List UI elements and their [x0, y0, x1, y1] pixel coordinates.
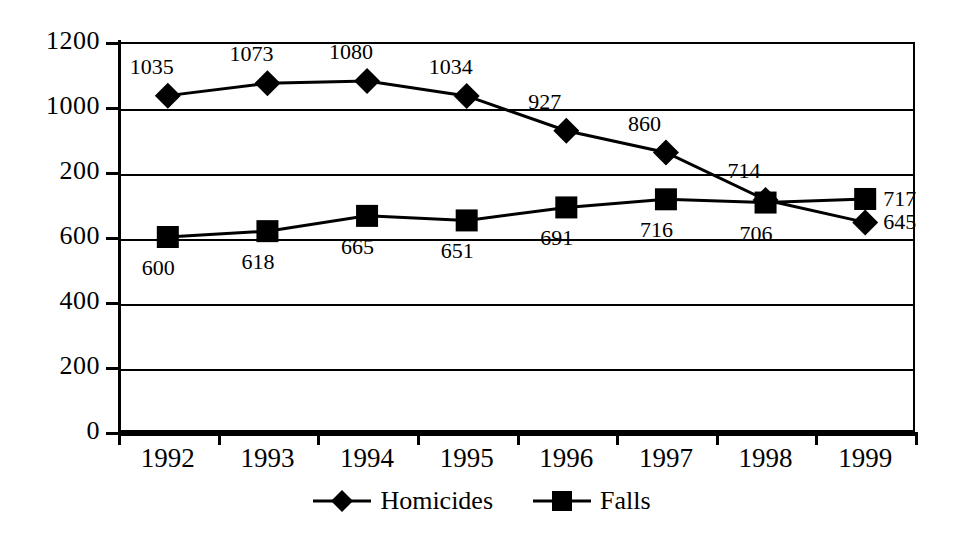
- x-axis-label: 1999: [815, 443, 915, 473]
- x-axis-label: 1998: [716, 443, 816, 473]
- y-axis-label-wrap: 1000: [0, 93, 100, 119]
- legend-label-homicides: Homicides: [380, 487, 493, 515]
- data-point-label: 1035: [130, 56, 174, 78]
- y-axis-label-wrap: 0: [0, 418, 100, 444]
- square-marker-icon: [533, 488, 591, 514]
- legend-label-falls: Falls: [600, 487, 651, 515]
- data-point-label: 651: [441, 240, 474, 262]
- data-point-label: 714: [728, 160, 761, 182]
- data-point-marker: [755, 192, 777, 214]
- data-point-marker: [653, 140, 679, 166]
- data-point-marker: [456, 209, 478, 231]
- y-axis-label: 200: [60, 353, 101, 379]
- y-axis-label: 600: [60, 223, 101, 249]
- y-axis-label: 1200: [46, 28, 100, 54]
- data-point-marker: [555, 196, 577, 218]
- legend-item-falls[interactable]: Falls: [533, 487, 651, 515]
- data-point-label: 691: [540, 227, 573, 249]
- data-point-label: 665: [341, 236, 374, 258]
- data-point-marker: [256, 220, 278, 242]
- y-axis-label-wrap: 200: [0, 353, 100, 379]
- data-point-label: 645: [883, 211, 916, 233]
- data-point-label: 927: [528, 91, 561, 113]
- data-point-marker: [354, 68, 380, 94]
- data-point-marker: [155, 83, 181, 109]
- x-axis-label: 1992: [118, 443, 218, 473]
- y-axis-label-wrap: 400: [0, 288, 100, 314]
- x-axis-label: 1997: [616, 443, 716, 473]
- data-point-label: 716: [640, 219, 673, 241]
- data-point-label: 1080: [329, 41, 373, 63]
- data-point-marker: [157, 226, 179, 248]
- data-point-marker: [854, 188, 876, 210]
- x-axis-tick: [915, 432, 918, 445]
- x-axis-label: 1996: [517, 443, 617, 473]
- y-axis-label: 200: [60, 158, 101, 184]
- legend-item-homicides[interactable]: Homicides: [313, 487, 493, 515]
- data-point-marker: [454, 83, 480, 109]
- line-chart: 020040060020010001200 199219931994199519…: [0, 0, 964, 538]
- x-axis-label: 1994: [317, 443, 417, 473]
- data-point-marker: [553, 118, 579, 144]
- data-point-marker: [852, 209, 878, 235]
- data-point-label: 860: [628, 113, 661, 135]
- chart-legend: Homicides Falls: [0, 487, 964, 515]
- y-axis-label: 400: [60, 288, 101, 314]
- x-axis-label: 1995: [417, 443, 517, 473]
- y-axis-label-wrap: 1200: [0, 28, 100, 54]
- y-axis-label-wrap: 200: [0, 158, 100, 184]
- data-point-label: 600: [142, 257, 175, 279]
- x-axis-label: 1993: [218, 443, 318, 473]
- data-point-label: 1034: [429, 56, 473, 78]
- data-point-label: 618: [241, 251, 274, 273]
- y-axis-label-wrap: 600: [0, 223, 100, 249]
- diamond-marker-icon: [313, 488, 371, 514]
- data-point-marker: [356, 205, 378, 227]
- data-point-marker: [254, 70, 280, 96]
- data-point-label: 706: [740, 223, 773, 245]
- data-point-label: 1073: [229, 43, 273, 65]
- data-point-marker: [655, 188, 677, 210]
- series-layer: [118, 42, 915, 432]
- y-axis-label: 1000: [46, 93, 100, 119]
- data-point-label: 717: [883, 188, 916, 210]
- y-axis-label: 0: [87, 418, 101, 444]
